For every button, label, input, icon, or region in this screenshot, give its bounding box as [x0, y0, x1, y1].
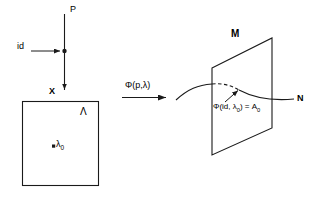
- label-base-point-x: X: [49, 87, 55, 96]
- lambda-zero-subscript: 0: [61, 144, 65, 151]
- label-fiber-p: P: [70, 5, 76, 14]
- curve-n-right-segment: [239, 90, 294, 100]
- manifold-plane-m: [212, 38, 272, 155]
- label-manifold-m: M: [231, 29, 239, 39]
- equation-middle: ) = A: [240, 102, 257, 111]
- label-map-phi: Φ(p,λ): [125, 81, 150, 90]
- diagram-vector-layer: [0, 0, 314, 198]
- curve-n-hidden-segment: [212, 84, 239, 90]
- label-base-space-lambda: Λ: [80, 107, 87, 117]
- equation-prefix: Φ(id, λ: [213, 102, 237, 111]
- identity-point-marker: [62, 49, 66, 53]
- curve-n-left-segment: [176, 84, 212, 100]
- lambda-zero-point-marker: [52, 145, 55, 148]
- label-image-point-equation: Φ(id, λ0) = A0: [213, 103, 260, 113]
- image-point-pointer-arrow: [225, 91, 238, 103]
- diagram-canvas: P id X Λ λ0 Φ(p,λ) M N Φ(id, λ0) = A0: [0, 0, 314, 198]
- label-lambda-zero: λ0: [56, 140, 64, 151]
- label-identity-section: id: [17, 42, 24, 51]
- equation-subscript-two: 0: [257, 107, 260, 113]
- label-curve-n: N: [297, 94, 304, 103]
